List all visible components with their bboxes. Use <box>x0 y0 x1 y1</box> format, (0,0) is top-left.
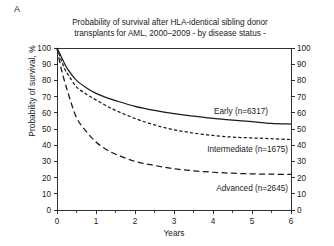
y-tick-label-left: 10 <box>42 190 52 199</box>
y-tick-label-left: 50 <box>42 125 52 134</box>
curve-label-advanced: Advanced (n=2645) <box>216 184 288 193</box>
y-tick-label-right: 100 <box>297 44 311 53</box>
y-tick-label-left: 60 <box>42 109 52 118</box>
y-tick-label-right: 60 <box>297 109 307 118</box>
y-tick-label-right: 70 <box>297 93 307 102</box>
y-tick-label-right: 0 <box>297 206 302 215</box>
x-tick-label: 6 <box>289 217 294 226</box>
x-tick-label: 4 <box>211 217 216 226</box>
x-tick-label: 5 <box>250 217 255 226</box>
figure-panel-a: A Probability of survival after HLA-iden… <box>0 0 334 246</box>
x-tick-label: 0 <box>55 217 60 226</box>
y-tick-label-left: 20 <box>42 174 52 183</box>
y-tick-label-right: 90 <box>297 60 307 69</box>
y-tick-label-right: 10 <box>297 190 307 199</box>
y-tick-label-left: 70 <box>42 93 52 102</box>
y-tick-label-left: 30 <box>42 157 52 166</box>
y-tick-label-left: 40 <box>42 141 52 150</box>
survival-plot: 0102030405060708090100010203040506070809… <box>0 0 334 246</box>
survival-curve-intermediate <box>57 48 291 140</box>
y-tick-label-left: 80 <box>42 76 52 85</box>
y-tick-label-right: 30 <box>297 157 307 166</box>
x-tick-label: 2 <box>133 217 138 226</box>
y-tick-label-right: 80 <box>297 76 307 85</box>
curve-label-intermediate: Intermediate (n=1675) <box>207 145 288 154</box>
y-tick-label-left: 0 <box>46 206 51 215</box>
axes-group: 0102030405060708090100010203040506070809… <box>37 44 311 226</box>
curve-labels-group: Early (n=6317)Intermediate (n=1675)Advan… <box>207 107 288 193</box>
x-tick-label: 1 <box>94 217 99 226</box>
y-tick-label-right: 20 <box>297 174 307 183</box>
y-tick-label-left: 100 <box>37 44 51 53</box>
x-tick-label: 3 <box>172 217 177 226</box>
y-tick-label-right: 50 <box>297 125 307 134</box>
y-tick-label-right: 40 <box>297 141 307 150</box>
curve-label-early: Early (n=6317) <box>214 107 268 116</box>
y-tick-label-left: 90 <box>42 60 52 69</box>
